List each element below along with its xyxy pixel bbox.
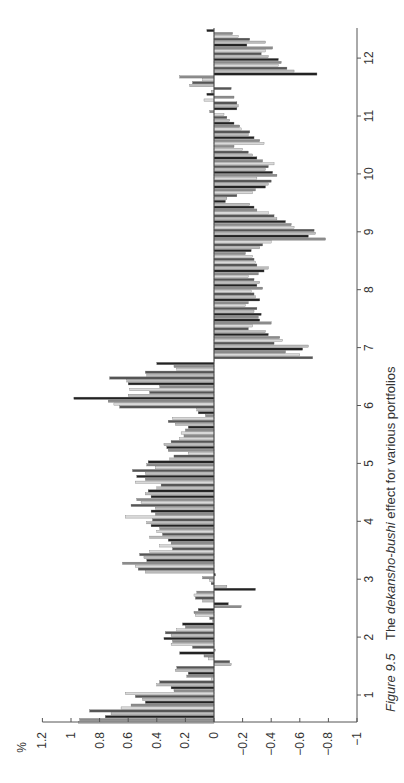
bar (214, 35, 238, 37)
bar (214, 218, 277, 220)
bar (180, 76, 214, 78)
value-tick-label: 0.8 (93, 732, 107, 749)
bar (194, 594, 214, 596)
bar (171, 643, 214, 645)
bar (74, 397, 214, 399)
bar (214, 64, 278, 66)
bar (150, 536, 214, 538)
bar (137, 475, 214, 477)
bar (105, 716, 214, 718)
bar (214, 278, 254, 280)
bar (214, 339, 283, 341)
bar (214, 585, 227, 587)
bar (214, 47, 273, 49)
bar (214, 200, 225, 202)
bar (214, 307, 257, 309)
bar (214, 154, 253, 156)
bar (214, 148, 243, 150)
bar (181, 432, 214, 434)
bar (171, 542, 214, 544)
bar (122, 562, 214, 564)
value-tick-label: 0.2 (178, 732, 192, 749)
bar (171, 687, 214, 689)
bar (214, 276, 248, 278)
bar (143, 698, 215, 700)
bar (170, 458, 214, 460)
bar (214, 32, 233, 34)
bar (214, 180, 271, 182)
caption-emphasis: dekansho-bushi (383, 521, 398, 614)
bar (214, 249, 251, 251)
bar (214, 113, 224, 115)
bar (151, 496, 214, 498)
bar (214, 145, 234, 147)
bar (214, 252, 245, 254)
bar (214, 264, 257, 266)
y-axis-unit-label: % (15, 742, 29, 753)
bar (205, 414, 214, 416)
bar (214, 319, 260, 321)
bar (195, 614, 214, 616)
bar (125, 692, 214, 694)
bar (214, 331, 265, 333)
bar (214, 183, 268, 185)
bar-series (74, 29, 326, 723)
bar (214, 287, 263, 289)
bar (147, 559, 214, 561)
bar (214, 73, 317, 75)
value-tick-label: 0 (207, 732, 221, 739)
bar (214, 189, 255, 191)
bar (214, 302, 248, 304)
bar (214, 316, 258, 318)
bar (145, 493, 214, 495)
bar (214, 163, 274, 165)
bar (160, 681, 214, 683)
bar (131, 504, 214, 506)
bar (207, 29, 214, 31)
bar (214, 206, 254, 208)
bar (197, 409, 214, 411)
bar (214, 203, 250, 205)
month-tick-label: 11 (362, 109, 376, 122)
bar (90, 710, 214, 712)
bar (208, 658, 214, 660)
bar (214, 223, 291, 225)
bar (214, 238, 326, 240)
bar (168, 420, 214, 422)
bar (155, 467, 214, 469)
bar (214, 125, 240, 127)
bar (127, 380, 214, 382)
month-tick-label: 9 (362, 228, 376, 235)
bar (167, 446, 214, 448)
bar (151, 524, 214, 526)
bar (214, 174, 277, 176)
bar (214, 171, 273, 173)
bar (214, 244, 263, 246)
bar (214, 105, 238, 107)
bar (214, 284, 257, 286)
bar (214, 325, 253, 327)
bar (130, 388, 214, 390)
bar (207, 93, 214, 95)
bar (145, 478, 214, 480)
value-tick-label: −0.8 (321, 732, 335, 756)
bar (171, 635, 214, 637)
bar (214, 134, 248, 136)
bar (157, 362, 214, 364)
bar (155, 513, 214, 515)
svg-text:Figure 9.5 The de: Figure 9.5 The dekansho-bushi effect for… (383, 366, 398, 712)
bar (214, 328, 248, 330)
bar (214, 192, 253, 194)
bar (148, 490, 214, 492)
bar (198, 608, 214, 610)
month-tick-label: 3 (362, 576, 376, 583)
bar (135, 565, 214, 567)
bar (214, 310, 254, 312)
bar (145, 571, 214, 573)
bar (183, 623, 214, 625)
bar (177, 666, 214, 668)
bar (214, 166, 268, 168)
bar (111, 713, 214, 715)
bar (214, 131, 250, 133)
bar (190, 84, 214, 86)
